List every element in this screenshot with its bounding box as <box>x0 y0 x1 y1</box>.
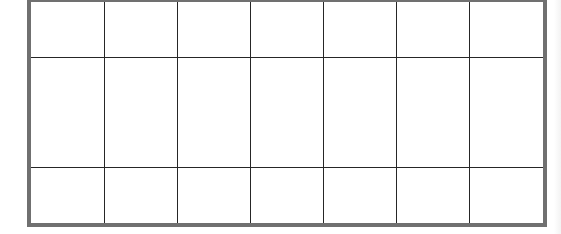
grid-cell <box>104 57 177 168</box>
grid-cell <box>397 2 470 57</box>
grid-cell <box>31 168 104 223</box>
grid-cell <box>177 2 250 57</box>
grid-cell <box>397 57 470 168</box>
grid-cell <box>397 168 470 223</box>
grid-cell <box>177 168 250 223</box>
grid-cell <box>470 57 543 168</box>
grid-row <box>31 57 543 168</box>
grid-row <box>31 168 543 223</box>
grid-row <box>31 2 543 57</box>
page-edge-shade <box>554 0 561 234</box>
grid-cell <box>250 2 323 57</box>
grid-cell <box>177 57 250 168</box>
grid-cell <box>104 2 177 57</box>
grid-cell <box>250 57 323 168</box>
empty-grid <box>27 0 547 227</box>
grid-cell <box>31 2 104 57</box>
grid-cell <box>324 168 397 223</box>
grid-cell <box>104 168 177 223</box>
grid-table <box>31 2 543 223</box>
grid-cell <box>250 168 323 223</box>
grid-cell <box>470 2 543 57</box>
grid-cell <box>31 57 104 168</box>
grid-cell <box>470 168 543 223</box>
grid-cell <box>324 2 397 57</box>
grid-cell <box>324 57 397 168</box>
